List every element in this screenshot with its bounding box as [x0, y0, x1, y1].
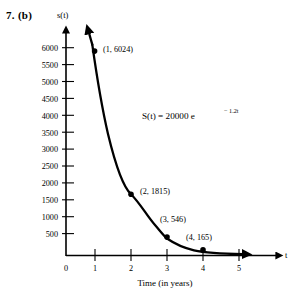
x-tick-label: 5 [237, 264, 241, 273]
y-tick-label: 5500 [42, 61, 58, 70]
x-tick-label: 1 [93, 264, 97, 273]
x-tick-label: 4 [201, 264, 205, 273]
x-axis-variable-label: t [285, 250, 288, 260]
y-tick-label: 2000 [42, 179, 58, 188]
point-label-4: (4, 165) [186, 233, 212, 242]
y-tick-label: 5000 [42, 78, 58, 87]
y-ticks-group [62, 48, 74, 234]
point-labels-group: (1, 6024) (2, 1815) (3, 546) (4, 165) [103, 45, 212, 242]
curve-upper-arrow [89, 33, 92, 45]
y-tick-label: 6000 [42, 44, 58, 53]
y-tick-label: 2500 [42, 162, 58, 171]
data-points-group [92, 48, 206, 252]
equation-annotation: S(t) = 20000 e − 1.2t [142, 107, 239, 121]
point-label-1: (1, 6024) [103, 45, 133, 54]
exponential-decay-graph: 6000 5500 5000 4500 4000 3500 3000 2500 … [0, 0, 300, 291]
equation-main-text: S(t) = 20000 e [142, 111, 195, 121]
point-label-3: (3, 546) [160, 215, 186, 224]
y-axis-label: s(t) [57, 10, 69, 20]
equation-exponent-text: − 1.2t [224, 107, 239, 114]
data-point [128, 191, 134, 197]
y-tick-label: 3000 [42, 145, 58, 154]
data-point [92, 48, 98, 54]
data-point [200, 247, 206, 253]
y-tick-label: 1000 [42, 213, 58, 222]
y-tick-label: 3500 [42, 129, 58, 138]
y-tick-label: 4500 [42, 95, 58, 104]
y-tick-labels-group: 6000 5500 5000 4500 4000 3500 3000 2500 … [42, 44, 58, 239]
y-tick-label: 4000 [42, 112, 58, 121]
x-tick-label: 2 [129, 264, 133, 273]
y-tick-label: 1500 [42, 196, 58, 205]
x-tick-labels-group: 0 1 2 3 4 5 [64, 264, 241, 273]
data-point [164, 234, 170, 240]
point-label-2: (2, 1815) [140, 187, 170, 196]
x-axis-title: Time (in years) [137, 278, 192, 288]
x-origin-label: 0 [64, 264, 68, 273]
x-tick-label: 3 [165, 264, 169, 273]
y-tick-label: 500 [46, 230, 58, 239]
